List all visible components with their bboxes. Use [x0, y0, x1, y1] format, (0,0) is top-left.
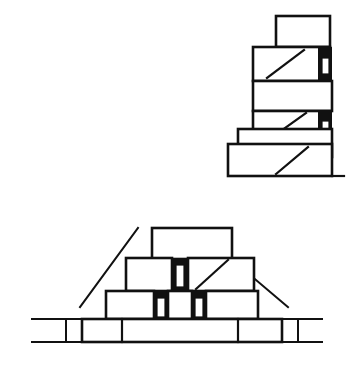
upper-block-course4	[253, 81, 332, 111]
drawing-canvas	[0, 0, 364, 365]
pyramid-slot-mid-right	[195, 298, 203, 317]
pyramid-block-course3-left	[126, 258, 172, 291]
pyramid-block-course4	[152, 228, 232, 259]
pyramid-block-course2-right	[206, 291, 258, 319]
pyramid-slot-top	[176, 265, 184, 287]
pyramid-block-course2-center	[168, 291, 192, 319]
upper-block-course6	[276, 16, 330, 47]
pyramid-slot-mid-left	[157, 298, 165, 317]
pyramid-block-course2-left	[106, 291, 154, 319]
upper-slot-upper	[322, 58, 329, 74]
pyramid-block-course1	[82, 319, 282, 342]
